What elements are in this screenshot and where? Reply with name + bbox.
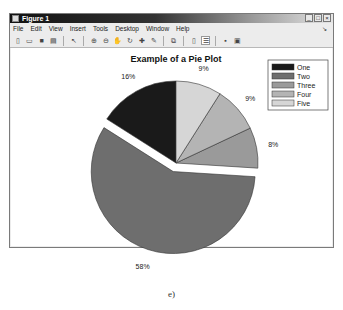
pie-label-five: 9% <box>199 65 209 72</box>
legend-swatch-three <box>272 82 294 88</box>
pie-label-three: 8% <box>268 141 278 148</box>
legend-label-four: Four <box>297 91 312 98</box>
chart-title: Example of a Pie Plot <box>130 54 221 64</box>
pie-label-one: 16% <box>121 73 135 80</box>
pie-chart: Example of a Pie Plot 16%58%8%9%9% OneTw… <box>0 0 343 310</box>
legend-label-five: Five <box>297 100 310 107</box>
legend-label-two: Two <box>297 73 310 80</box>
legend-swatch-four <box>272 91 294 97</box>
pie-slices <box>91 81 258 254</box>
legend-swatch-one <box>272 64 294 70</box>
legend-label-one: One <box>297 64 310 71</box>
chart-legend[interactable]: OneTwoThreeFourFive <box>268 60 328 110</box>
legend-swatch-two <box>272 73 294 79</box>
pie-label-two: 58% <box>136 263 150 270</box>
legend-label-three: Three <box>297 82 315 89</box>
figure-caption: e) <box>0 289 343 299</box>
pie-label-four: 9% <box>245 95 255 102</box>
legend-swatch-five <box>272 100 294 106</box>
